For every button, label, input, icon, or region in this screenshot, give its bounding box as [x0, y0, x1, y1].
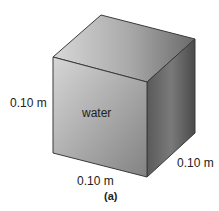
contents-label: water	[82, 107, 111, 120]
height-dimension-label: 0.10 m	[10, 97, 47, 110]
cube-diagram: 0.10 m water 0.10 m 0.10 m (a)	[0, 0, 219, 211]
width-dimension-label: 0.10 m	[77, 175, 114, 188]
depth-dimension-label: 0.10 m	[177, 157, 214, 170]
figure-caption: (a)	[104, 190, 117, 203]
